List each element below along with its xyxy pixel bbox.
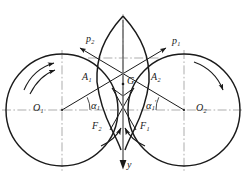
label-angle-left: α1 — [91, 100, 100, 112]
dot-o1 — [61, 109, 63, 111]
g-notch-right — [123, 88, 134, 96]
g-notch-left — [112, 88, 123, 96]
rotation-arrow-left-inner — [30, 70, 55, 94]
engineering-diagram-figure: O1 O2 A1 A2 G F2 F1 p2 p1 α1 α1′ y — [0, 0, 246, 185]
diagram-canvas — [0, 0, 246, 185]
label-point-a1: A1 — [82, 72, 92, 83]
angle-arc-left — [87, 97, 90, 110]
label-force-f2: F2 — [92, 121, 102, 132]
label-center-left: O1 — [33, 103, 44, 114]
label-force-f1: F1 — [140, 121, 150, 132]
label-angle-right: α1′ — [146, 100, 157, 112]
y-axis-arrowhead — [120, 160, 127, 170]
lens-right-arc — [123, 16, 149, 82]
label-pressure-p1: p1 — [172, 36, 180, 47]
label-center-right: O2 — [196, 103, 207, 114]
dot-o2 — [183, 109, 185, 111]
label-pressure-p2: p2 — [86, 34, 94, 45]
label-point-a2: A2 — [151, 72, 161, 83]
label-axis-y: y — [127, 160, 132, 171]
dot-g — [122, 83, 125, 86]
lens-left-arc — [97, 16, 123, 82]
label-point-g: G — [127, 76, 135, 87]
rotation-arrow-left — [24, 63, 54, 90]
